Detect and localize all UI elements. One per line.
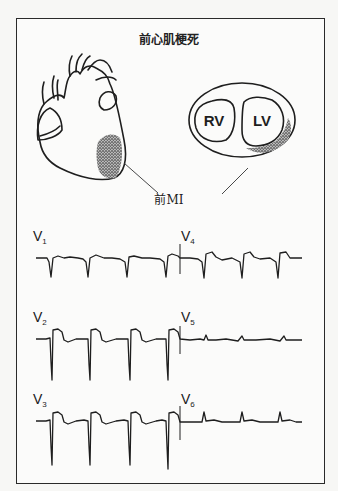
pointer-line-heart — [124, 163, 158, 193]
lead-label-v1: V1 — [33, 228, 47, 246]
ecg-trace-v2-v5 — [36, 329, 302, 380]
lead-label-v3: V3 — [33, 391, 47, 409]
ecg-trace-v1-v4 — [36, 252, 302, 278]
lead-label-v2: V2 — [33, 309, 47, 327]
heart-infarct-region — [97, 135, 123, 179]
lv-label: LV — [253, 112, 271, 129]
rv-label: RV — [204, 112, 225, 129]
infarct-caption: 前MI — [0, 190, 338, 207]
illustration-canvas: RV LV — [0, 0, 338, 491]
ecg-trace-v3-v6 — [36, 412, 302, 469]
ecg-strips — [36, 244, 302, 469]
lead-label-v4: V4 — [181, 228, 195, 246]
lead-label-v5: V5 — [181, 309, 195, 327]
lead-label-v6: V6 — [181, 391, 195, 409]
heart-illustration — [38, 54, 126, 180]
